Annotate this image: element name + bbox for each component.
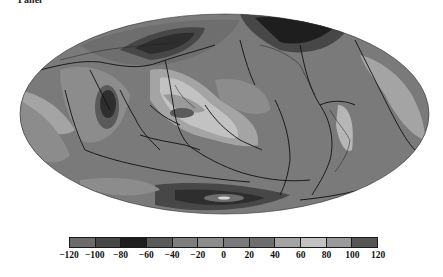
colorbar-tick: 80 [322, 250, 332, 260]
colorbar-tick: −40 [165, 250, 180, 260]
colorbar-bin [301, 238, 327, 247]
colorbar-bin [224, 238, 250, 247]
colorbar-tick: −100 [85, 250, 105, 260]
colorbar-bin [147, 238, 173, 247]
colorbar-tick: −60 [139, 250, 154, 260]
colorbar-bin [352, 238, 377, 247]
colorbar-bin [173, 238, 199, 247]
colorbar-bin [198, 238, 224, 247]
colorbar-tick: 120 [371, 250, 385, 260]
colorbar-bin [121, 238, 147, 247]
colorbar-tick: −80 [113, 250, 128, 260]
colorbar-tick: 20 [244, 250, 254, 260]
colorbar-bin [275, 238, 301, 247]
colorbar-bin [96, 238, 122, 247]
colorbar-tick: −120 [59, 250, 79, 260]
contour-field [0, 0, 443, 230]
colorbar-tick-labels: −120 −100 −80 −60 −40 −20 0 20 40 60 80 … [69, 250, 378, 264]
colorbar-bin [70, 238, 96, 247]
colorbar-bin [250, 238, 276, 247]
mollweide-map [0, 0, 443, 230]
colorbar-tick: 40 [270, 250, 280, 260]
colorbar-bin [327, 238, 353, 247]
colorbar-tick: −20 [190, 250, 205, 260]
colorbar-tick: 100 [345, 250, 359, 260]
colorbar [69, 237, 378, 248]
colorbar-tick: 0 [221, 250, 226, 260]
colorbar-tick: 60 [296, 250, 306, 260]
